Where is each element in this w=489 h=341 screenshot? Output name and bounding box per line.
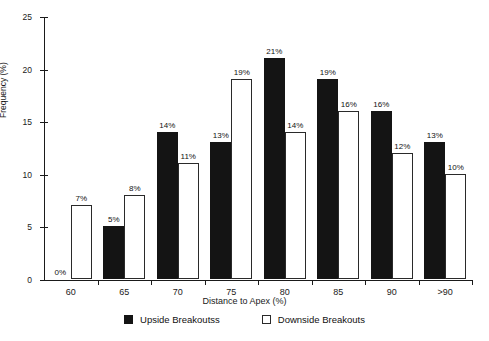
- bar-downside-90: [392, 153, 413, 279]
- y-tick-mark: [40, 227, 48, 228]
- legend-label-upside: Upside Breakoutss: [140, 314, 220, 325]
- legend-item-upside: Upside Breakoutss: [124, 314, 220, 325]
- bar-value-label: 14%: [159, 122, 175, 130]
- legend-swatch-outlined-square-icon: [262, 315, 271, 324]
- bar-value-label: 8%: [129, 185, 141, 193]
- bar-downside-75: [231, 79, 252, 279]
- x-tick-mark: [472, 280, 473, 285]
- x-tick-mark: [312, 280, 313, 285]
- y-axis-line: [44, 17, 45, 280]
- bar-value-label: 13%: [427, 132, 443, 140]
- legend-label-downside: Downside Breakouts: [278, 314, 365, 325]
- bar-value-label: 0%: [54, 269, 66, 277]
- y-tick-mark: [40, 175, 48, 176]
- bar-downside-85: [338, 111, 359, 279]
- x-tick-mark: [258, 280, 259, 285]
- bar-downside-65: [124, 195, 145, 279]
- bar-value-label: 12%: [394, 143, 410, 151]
- bar-upside-70: [157, 132, 178, 279]
- x-tick-mark: [151, 280, 152, 285]
- bar-value-label: 7%: [75, 195, 87, 203]
- x-tick-mark: [419, 280, 420, 285]
- bar-value-label: 16%: [341, 101, 357, 109]
- bar-value-label: 14%: [287, 122, 303, 130]
- chart-legend: Upside Breakoutss Downside Breakouts: [0, 314, 489, 325]
- bar-value-label: 13%: [213, 132, 229, 140]
- bar-upside-85: [317, 79, 338, 279]
- bar-value-label: 16%: [373, 101, 389, 109]
- bar-downside-60: [71, 205, 92, 279]
- y-tick-mark: [40, 70, 48, 71]
- bar-downside-70: [178, 163, 199, 279]
- plot-area: 0510152025 60657075808590>90 0%7%5%8%14%…: [44, 17, 472, 280]
- x-axis-title: Distance to Apex (%): [0, 296, 489, 306]
- bar-upside-90: [371, 111, 392, 279]
- legend-swatch-filled-square-icon: [124, 315, 133, 324]
- bar-upside-75: [210, 142, 231, 279]
- y-tick-mark: [40, 17, 48, 18]
- bar-upside->90: [424, 142, 445, 279]
- bar-upside-80: [264, 58, 285, 279]
- bar-value-label: 10%: [448, 164, 464, 172]
- y-tick-mark: [40, 122, 48, 123]
- y-axis-title: Frequency (%): [0, 62, 8, 118]
- bar-downside->90: [445, 174, 466, 279]
- bar-value-label: 19%: [320, 69, 336, 77]
- bar-value-label: 5%: [108, 216, 120, 224]
- bar-value-label: 11%: [181, 153, 196, 161]
- legend-item-downside: Downside Breakouts: [262, 314, 365, 325]
- bar-value-label: 21%: [266, 48, 282, 56]
- y-tick-mark: [40, 280, 48, 281]
- bar-chart-figure: 0510152025 60657075808590>90 0%7%5%8%14%…: [0, 0, 489, 341]
- bar-upside-65: [103, 226, 124, 279]
- bar-downside-80: [285, 132, 306, 279]
- x-tick-mark: [205, 280, 206, 285]
- bar-value-label: 19%: [234, 69, 250, 77]
- x-tick-mark: [98, 280, 99, 285]
- x-tick-mark: [365, 280, 366, 285]
